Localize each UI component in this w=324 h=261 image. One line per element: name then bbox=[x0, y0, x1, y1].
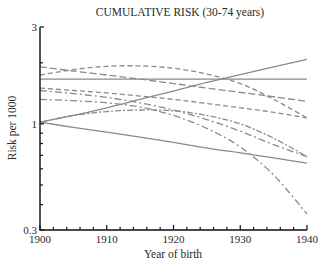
chart: CUMULATIVE RISK (30-74 years) Year of bi… bbox=[0, 0, 324, 261]
x-tick-label: 1910 bbox=[96, 233, 119, 245]
series-line-dash-dot-descending bbox=[40, 90, 307, 156]
series-line-dot-dash-flat-curve bbox=[40, 110, 307, 157]
x-tick-label: 1920 bbox=[163, 233, 186, 245]
x-axis-label: Year of birth bbox=[144, 248, 202, 260]
y-tick-label: 0.3 bbox=[23, 224, 37, 236]
series-layer bbox=[40, 59, 307, 214]
y-axis-label: Risk per 1000 bbox=[6, 95, 19, 160]
y-tick-label: 1 bbox=[32, 118, 38, 130]
x-tick-label: 1940 bbox=[296, 233, 319, 245]
y-tick-label: 3 bbox=[32, 21, 38, 33]
chart-title: CUMULATIVE RISK (30-74 years) bbox=[96, 6, 264, 19]
series-line-solid-descending bbox=[40, 122, 307, 163]
axes-layer: 19001910192019301940310.3 bbox=[23, 21, 318, 245]
x-tick-label: 1930 bbox=[229, 233, 252, 245]
